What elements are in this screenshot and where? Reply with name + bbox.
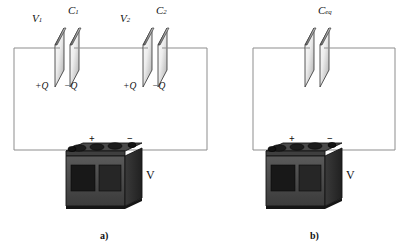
battery-b-plus-terminal-label: +: [289, 134, 295, 144]
capacitor-c1-voltage-label: V1: [32, 13, 42, 24]
capacitor-c2-voltage-label: V2: [120, 13, 130, 24]
panel-a-caption: a): [100, 231, 108, 241]
capacitor-c2-negative-charge-label: −Q: [152, 82, 165, 92]
battery-a-minus-terminal-label: −: [127, 134, 133, 144]
capacitor-c1-negative-charge-label: −Q: [64, 82, 77, 92]
capacitor-c1-positive-charge-label: +Q: [35, 82, 48, 92]
battery-a-plus-terminal-label: +: [89, 134, 95, 144]
figure-canvas: V1 C1 +Q −Q V2 C2 +Q −Q + − V Ceq + − V …: [0, 0, 403, 248]
battery-b-voltage-label: V: [346, 169, 355, 181]
battery-b: [266, 142, 342, 209]
capacitor-c1-name-label: C1: [68, 5, 79, 16]
batteries-layer: [0, 0, 403, 248]
battery-a: [66, 142, 142, 209]
capacitor-c2-positive-charge-label: +Q: [123, 82, 136, 92]
capacitor-ceq-name-label: Ceq: [318, 5, 332, 16]
panel-b-caption: b): [310, 231, 319, 241]
battery-a-voltage-label: V: [146, 169, 155, 181]
battery-b-minus-terminal-label: −: [327, 134, 333, 144]
capacitor-c2-name-label: C2: [156, 5, 167, 16]
